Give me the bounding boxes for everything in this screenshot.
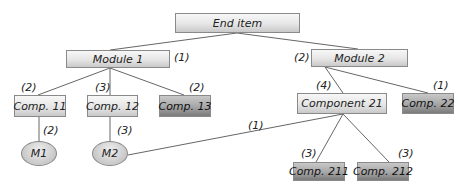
node-comp-13: Comp. 13 xyxy=(159,95,211,117)
qty-component-21: (4) xyxy=(316,79,332,92)
node-end-item: End item xyxy=(175,13,300,33)
edge-end-module1 xyxy=(110,33,237,50)
node-comp-212: Comp. 212 xyxy=(357,162,409,181)
node-comp-12: Comp. 12 xyxy=(87,95,138,117)
node-comp-211: Comp. 211 xyxy=(293,162,345,181)
edge-end-module2 xyxy=(237,33,358,49)
edge-component21-comp211 xyxy=(316,114,343,162)
qty-module-2: (2) xyxy=(294,51,310,64)
node-comp-22: Comp. 22 xyxy=(402,93,454,114)
qty-comp-11: (2) xyxy=(21,81,37,94)
node-m1: M1 xyxy=(21,141,57,166)
qty-comp-212: (3) xyxy=(398,147,414,160)
qty-comp-13: (2) xyxy=(189,81,205,94)
qty-module-1: (1) xyxy=(174,51,190,64)
node-comp-11: Comp. 11 xyxy=(14,95,66,117)
qty-comp-22: (1) xyxy=(433,79,449,92)
edge-module1-comp13 xyxy=(110,68,184,95)
qty-m2-from-component21: (1) xyxy=(248,119,264,132)
node-component-21: Component 21 xyxy=(297,93,387,114)
node-module-2: Module 2 xyxy=(311,49,408,67)
qty-m2-from-comp12: (3) xyxy=(117,124,133,137)
edge-component21-comp212 xyxy=(343,114,389,162)
node-module-1: Module 1 xyxy=(66,50,170,68)
qty-comp-211: (3) xyxy=(301,147,317,160)
qty-comp-12: (3) xyxy=(95,81,111,94)
node-m2: M2 xyxy=(92,141,128,166)
qty-m1: (2) xyxy=(43,124,59,137)
